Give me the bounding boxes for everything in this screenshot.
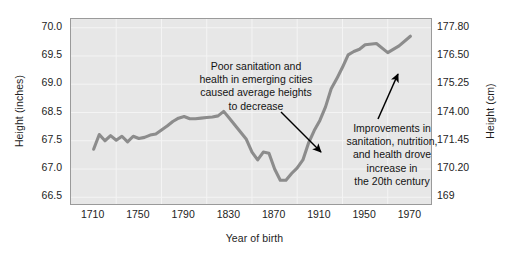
y-axis-left-tick-label: 70.0 <box>16 21 62 32</box>
y-axis-left-tick-label: 67.5 <box>16 134 62 145</box>
y-axis-right-tick-label: 175.25 <box>437 77 499 88</box>
y-axis-right-tick-label: 169 <box>437 190 499 201</box>
x-axis-tick-label: 1970 <box>379 209 439 220</box>
annotation-sanitation-decline: Poor sanitation and health in emerging c… <box>176 60 336 113</box>
y-axis-right-tick-label: 174.00 <box>437 106 499 117</box>
y-axis-right-tick-label: 176.50 <box>437 49 499 60</box>
chart-figure: Height (inches) Height (cm) Year of birt… <box>0 0 509 254</box>
x-axis-title: Year of birth <box>0 232 509 244</box>
y-axis-left-tick-label: 69.5 <box>16 49 62 60</box>
y-axis-right-tick-label: 177.80 <box>437 21 499 32</box>
annotation-improvements-increase: Improvements in sanitation, nutrition, a… <box>328 122 456 188</box>
y-axis-left-tick-label: 69.0 <box>16 77 62 88</box>
y-axis-left-tick-label: 67.0 <box>16 162 62 173</box>
y-axis-left-tick-label: 66.5 <box>16 190 62 201</box>
y-axis-left-tick-label: 68.5 <box>16 106 62 117</box>
